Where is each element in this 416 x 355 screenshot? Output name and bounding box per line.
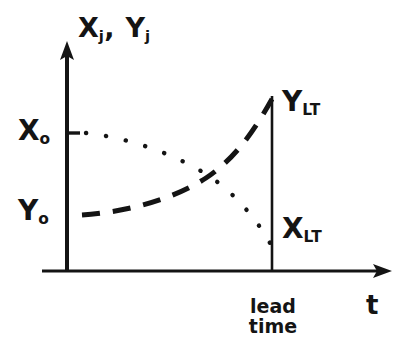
label-y-leadtime: YLT: [282, 88, 321, 116]
series-y-dashed-curve: [82, 99, 272, 215]
lead-time-chart-figure: Xj,Yj t Xo Yo YLT XLT leadtime: [0, 0, 416, 355]
label-x-leadtime-base: X: [282, 212, 304, 245]
label-lead-time: leadtime: [237, 297, 309, 337]
label-x-leadtime: XLT: [282, 215, 322, 243]
label-y-initial: Yo: [18, 197, 49, 225]
label-y-leadtime-base: Y: [282, 85, 302, 118]
chart-plot-area: [0, 0, 416, 355]
y-axis-caption-sub1: j: [99, 27, 104, 45]
label-y-leadtime-subscript: LT: [302, 101, 320, 119]
label-x-initial-base: X: [18, 114, 40, 147]
y-axis-caption-sub2: j: [145, 27, 150, 45]
y-axis-caption-separator: ,: [104, 12, 114, 43]
y-axis-caption-var2: Y: [125, 12, 145, 43]
label-x-leadtime-subscript: LT: [304, 228, 322, 246]
label-lead-time-line2: time: [249, 315, 297, 337]
label-x-initial-subscript: o: [40, 130, 51, 148]
label-y-initial-base: Y: [18, 194, 38, 227]
label-lead-time-line1: lead: [250, 295, 296, 317]
label-y-initial-subscript: o: [38, 210, 49, 228]
y-axis-caption: Xj,Yj: [78, 14, 150, 41]
x-axis-caption: t: [366, 292, 378, 318]
label-x-initial: Xo: [18, 117, 50, 145]
y-axis-caption-var1: X: [78, 12, 99, 43]
series-x-dotted-curve: [86, 133, 270, 243]
